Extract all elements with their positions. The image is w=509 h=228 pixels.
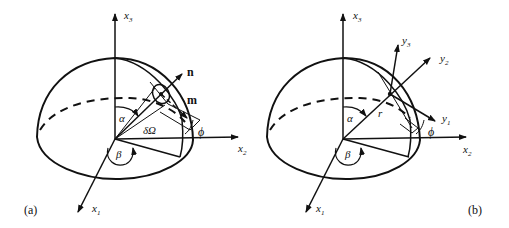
x1-axis-b xyxy=(306,139,343,212)
x3-label-a: x3 xyxy=(123,9,133,24)
hemisphere-base-front-b xyxy=(267,137,420,179)
alpha-label-b: α xyxy=(347,112,353,124)
r-label: r xyxy=(378,107,383,119)
x2-axis-a xyxy=(115,137,238,139)
y2-label: y2 xyxy=(439,52,449,67)
y1-axis xyxy=(390,94,435,121)
m-label: m xyxy=(187,93,197,107)
projection-line-a xyxy=(115,139,180,157)
delta-omega-label: δΩ xyxy=(143,124,156,136)
hemisphere-base-front-a xyxy=(37,137,193,179)
tangent-plane-b xyxy=(400,118,418,133)
panel-b: x3 x2 x1 y3 y2 y1 r α β ϕ (b) xyxy=(267,9,482,217)
x1-label-a: x1 xyxy=(91,202,100,217)
y1-label: y1 xyxy=(441,112,450,127)
panel-b-tag: (b) xyxy=(468,203,482,217)
x3-label-b: x3 xyxy=(352,9,362,24)
beta-label-a: β xyxy=(115,148,122,160)
hemisphere-diagram: x3 x2 x1 n m α β ϕ δΩ (a) x3 x2 xyxy=(0,0,509,228)
n-label: n xyxy=(187,65,194,79)
x2-label-b: x2 xyxy=(462,143,472,158)
panel-a-tag: (a) xyxy=(24,203,37,217)
x1-label-b: x1 xyxy=(315,202,324,217)
phi-label-b: ϕ xyxy=(428,125,434,139)
hemisphere-base-back-b xyxy=(270,98,410,130)
x2-label-a: x2 xyxy=(237,142,247,157)
y3-axis xyxy=(390,45,398,94)
phi-label-a: ϕ xyxy=(198,125,204,139)
y3-label: y3 xyxy=(401,34,411,49)
panel-a: x3 x2 x1 n m α β ϕ δΩ (a) xyxy=(24,9,247,217)
beta-label-b: β xyxy=(344,148,351,160)
x2-axis-b xyxy=(343,137,466,139)
projection-line-b xyxy=(343,139,409,157)
alpha-label-a: α xyxy=(119,112,125,124)
